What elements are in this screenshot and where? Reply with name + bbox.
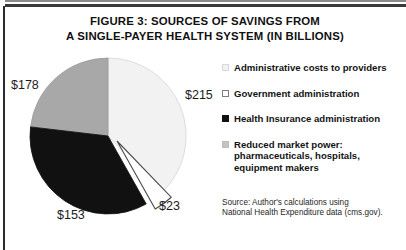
figure-title-line-1: FIGURE 3: SOURCES OF SAVINGS FROM [18,14,392,29]
figure-title: FIGURE 3: SOURCES OF SAVINGS FROM A SING… [18,14,392,43]
legend-label-reduced-market-power-line-2: pharmaceuticals, hospitals, [234,150,402,162]
legend-label-health-insurance-administration: Health Insurance administration [222,113,402,125]
legend-item-health-insurance-administration[interactable]: Health Insurance administration [222,113,402,125]
legend-item-reduced-market-power[interactable]: Reduced market power: pharmaceuticals, h… [222,139,402,174]
legend-swatch-icon-health-insurance-administration [222,115,229,122]
source-note-line-1: Source: Author's calculations using [222,198,402,208]
legend-swatch-icon-government-administration [222,90,229,97]
data-label-23: $23 [159,199,180,213]
data-label-178: $178 [11,78,39,92]
legend-swatch-icon-reduced-market-power [222,141,229,148]
legend-label-reduced-market-power-line-3: equipment makers [234,162,402,174]
source-note-line-2: National Health Expenditure data (cms.go… [222,208,402,218]
legend-swatch-icon-administrative-costs-to-providers [222,64,229,71]
pie-slice-reduced-market-power [31,58,108,136]
legend-label-reduced-market-power: Reduced market power: pharmaceuticals, h… [222,139,402,174]
data-label-153: $153 [57,208,85,222]
frame-top-rule [5,4,406,7]
legend-label-government-administration: Government administration [222,88,402,100]
legend-item-administrative-costs-to-providers[interactable]: Administrative costs to providers [222,62,402,74]
source-note: Source: Author's calculations using Nati… [222,198,402,219]
frame-top-outer-rule [5,0,406,2]
data-label-215: $215 [185,88,213,102]
figure-title-line-2: A SINGLE-PAYER HEALTH SYSTEM (IN BILLION… [18,29,392,44]
legend-label-reduced-market-power-line-1: Reduced market power: [234,139,402,151]
figure-container: FIGURE 3: SOURCES OF SAVINGS FROM A SING… [0,0,406,250]
legend-label-administrative-costs-to-providers: Administrative costs to providers [222,62,402,74]
legend: Administrative costs to providers Govern… [222,62,402,188]
legend-item-government-administration[interactable]: Government administration [222,88,402,100]
frame-left-rule [3,6,5,250]
